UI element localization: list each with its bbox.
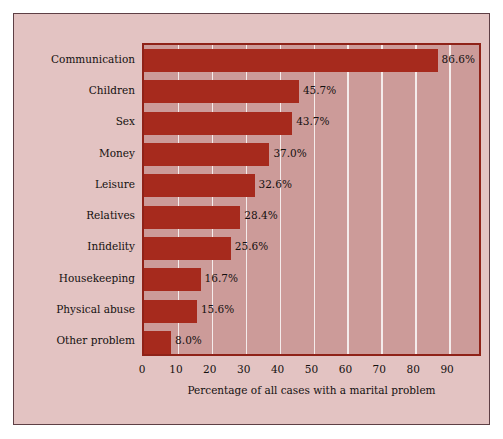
bar-value-label: 37.0% [273,148,306,159]
bar [144,49,438,72]
category-label: Other problem [14,335,135,346]
category-label: Leisure [14,179,135,190]
bar-value-label: 28.4% [244,210,277,221]
bar [144,268,201,291]
category-label: Housekeeping [14,273,135,284]
x-tick-label: 90 [427,364,467,375]
bar [144,80,299,103]
bar-value-label: 32.6% [259,179,292,190]
bar-value-label: 16.7% [205,273,238,284]
category-label: Physical abuse [14,304,135,315]
category-label: Children [14,85,135,96]
bar-value-label: 8.0% [175,335,202,346]
x-axis-title: Percentage of all cases with a marital p… [142,385,481,396]
chart-panel: CommunicationChildrenSexMoneyLeisureRela… [13,13,490,425]
bar-value-label: 45.7% [303,85,336,96]
bar [144,331,171,354]
bar [144,143,269,166]
bar-value-label: 86.6% [442,54,475,65]
bar-value-label: 25.6% [235,241,268,252]
bar [144,237,231,260]
gridline [347,45,349,354]
bar [144,206,240,229]
gridline [415,45,417,354]
category-label: Relatives [14,210,135,221]
bar [144,112,292,135]
bar-value-label: 43.7% [296,116,329,127]
gridline [449,45,451,354]
bar [144,174,255,197]
category-label: Money [14,148,135,159]
category-label: Communication [14,54,135,65]
bar [144,300,197,323]
bar-chart-figure: CommunicationChildrenSexMoneyLeisureRela… [0,0,503,439]
bar-value-label: 15.6% [201,304,234,315]
gridline [381,45,383,354]
category-label: Infidelity [14,241,135,252]
category-label: Sex [14,116,135,127]
